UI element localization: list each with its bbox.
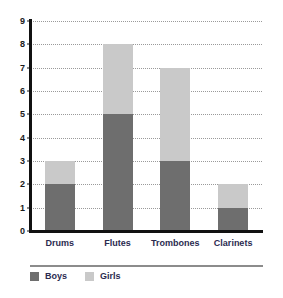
bars-layer [31,21,262,231]
bar-stack [45,161,75,231]
y-tick-label: 4 [20,133,25,142]
bar-segment-boys [160,161,190,231]
bar-segment-girls [45,161,75,184]
y-tick-label: 0 [20,227,25,236]
y-tick-label: 8 [20,40,25,49]
bar-segment-girls [160,68,190,161]
y-axis-line [29,19,32,233]
bar-stack [160,68,190,231]
bar-segment-girls [103,44,133,114]
y-tick-label: 6 [20,87,25,96]
x-tick-label: Flutes [104,237,131,249]
bar-segment-girls [218,184,248,207]
chart-legend: BoysGirls [30,272,121,281]
legend-swatch-icon [85,272,94,281]
bar-segment-boys [103,114,133,231]
x-tick-label: Clarinets [214,237,253,249]
x-axis-line [29,230,263,233]
bar-stack [218,184,248,231]
legend-swatch-icon [30,272,39,281]
plot-area: 0123456789 [31,21,262,231]
legend-label: Boys [45,272,67,281]
x-tick-label: Drums [46,237,75,249]
x-axis-labels: DrumsFlutesTrombonesClarinets [31,237,262,251]
stacked-bar-chart: 0123456789 DrumsFlutesTrombonesClarinets… [0,0,283,298]
legend-label: Girls [100,272,121,281]
y-tick-label: 9 [20,17,25,26]
y-tick-label: 5 [20,110,25,119]
y-tick-label: 2 [20,180,25,189]
legend-item[interactable]: Boys [30,272,67,281]
y-tick-label: 1 [20,203,25,212]
legend-item[interactable]: Girls [85,272,121,281]
legend-divider [30,265,263,267]
bar-segment-boys [45,184,75,231]
bar-segment-boys [218,208,248,231]
y-tick-label: 7 [20,63,25,72]
bar-stack [103,44,133,231]
x-tick-label: Trombones [151,237,200,249]
y-tick-label: 3 [20,157,25,166]
